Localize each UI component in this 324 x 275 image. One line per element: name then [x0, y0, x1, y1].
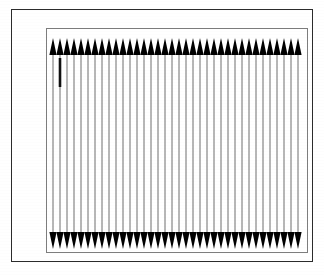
arrowhead-down-icon	[140, 232, 147, 249]
line-group	[53, 55, 298, 234]
arrowhead-down-icon	[98, 232, 105, 249]
arrowhead-up-icon	[63, 38, 70, 55]
arrowhead-down-icon	[273, 232, 280, 249]
arrowhead-down-icon	[119, 232, 126, 249]
arrowhead-down-icon	[56, 232, 63, 249]
arrowhead-down-icon	[287, 232, 294, 249]
vertical-lines-chart	[47, 29, 309, 254]
arrowhead-up-icon	[217, 38, 224, 55]
arrowhead-down-icon	[70, 232, 77, 249]
arrowhead-up-icon	[147, 38, 154, 55]
arrowhead-down-icon	[203, 232, 210, 249]
arrowhead-up-icon	[189, 38, 196, 55]
arrowhead-down-icon	[84, 232, 91, 249]
arrowhead-down-icon	[105, 232, 112, 249]
arrowhead-down-icon	[210, 232, 217, 249]
arrowhead-down-icon	[63, 232, 70, 249]
arrowhead-up-icon	[210, 38, 217, 55]
arrowhead-down-icon	[280, 232, 287, 249]
arrowhead-down-icon	[224, 232, 231, 249]
arrowhead-up-icon	[259, 38, 266, 55]
outer-page-frame	[11, 9, 313, 262]
arrowhead-down-icon	[245, 232, 252, 249]
arrowhead-up-icon	[161, 38, 168, 55]
arrowhead-up-icon	[70, 38, 77, 55]
arrowhead-down-icon	[133, 232, 140, 249]
arrowhead-up-icon	[168, 38, 175, 55]
arrowhead-up-icon	[126, 38, 133, 55]
arrowhead-down-group	[49, 232, 301, 249]
figure-root	[0, 0, 324, 275]
arrowhead-up-icon	[238, 38, 245, 55]
arrowhead-up-icon	[105, 38, 112, 55]
arrowhead-up-icon	[175, 38, 182, 55]
arrowhead-down-icon	[217, 232, 224, 249]
arrowhead-up-icon	[49, 38, 56, 55]
arrowhead-down-icon	[161, 232, 168, 249]
arrowhead-up-icon	[287, 38, 294, 55]
arrowhead-up-icon	[245, 38, 252, 55]
arrowhead-down-icon	[154, 232, 161, 249]
arrowhead-down-icon	[112, 232, 119, 249]
arrowhead-down-icon	[252, 232, 259, 249]
arrowhead-up-icon	[112, 38, 119, 55]
arrowhead-up-icon	[154, 38, 161, 55]
arrowhead-up-icon	[203, 38, 210, 55]
arrowhead-up-icon	[231, 38, 238, 55]
arrowhead-up-icon	[252, 38, 259, 55]
arrowhead-down-icon	[175, 232, 182, 249]
arrowhead-up-icon	[273, 38, 280, 55]
arrowhead-up-icon	[133, 38, 140, 55]
arrowhead-up-icon	[84, 38, 91, 55]
arrowhead-up-icon	[91, 38, 98, 55]
arrowhead-down-icon	[126, 232, 133, 249]
arrowhead-up-icon	[294, 38, 301, 55]
arrowhead-up-icon	[182, 38, 189, 55]
arrowhead-down-icon	[147, 232, 154, 249]
plot-border	[46, 28, 308, 253]
arrowhead-down-icon	[168, 232, 175, 249]
arrowhead-up-icon	[266, 38, 273, 55]
arrowhead-up-icon	[196, 38, 203, 55]
arrowhead-down-icon	[77, 232, 84, 249]
arrowhead-up-icon	[280, 38, 287, 55]
arrowhead-down-icon	[196, 232, 203, 249]
arrowhead-down-icon	[91, 232, 98, 249]
arrowhead-up-icon	[98, 38, 105, 55]
arrowhead-down-icon	[182, 232, 189, 249]
arrowhead-up-icon	[140, 38, 147, 55]
arrowhead-down-icon	[259, 232, 266, 249]
arrowhead-down-icon	[266, 232, 273, 249]
arrowhead-down-icon	[231, 232, 238, 249]
plot-area	[47, 29, 307, 252]
arrowhead-up-icon	[56, 38, 63, 55]
arrowhead-up-icon	[119, 38, 126, 55]
arrowhead-down-icon	[238, 232, 245, 249]
arrowhead-up-group	[49, 38, 301, 55]
arrowhead-down-icon	[189, 232, 196, 249]
arrowhead-up-icon	[224, 38, 231, 55]
arrowhead-down-icon	[294, 232, 301, 249]
arrowhead-down-icon	[49, 232, 56, 249]
arrowhead-up-icon	[77, 38, 84, 55]
